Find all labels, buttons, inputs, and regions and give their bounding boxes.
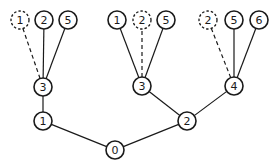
edge-n2-n4 xyxy=(194,91,227,115)
tree-node-n3b: 3 xyxy=(133,77,151,95)
node-label: 6 xyxy=(256,14,263,27)
nodes-layer: 012334125125256 xyxy=(11,11,268,159)
tree-node-m5: 5 xyxy=(157,11,175,29)
tree-node-m1: 1 xyxy=(108,11,126,29)
tree-node-r2: 2 xyxy=(199,11,217,29)
node-label: 0 xyxy=(112,144,119,157)
edge-n4-r2 xyxy=(211,28,230,77)
node-label: 5 xyxy=(163,14,170,27)
edge-n0-n1 xyxy=(51,124,106,146)
tree-node-r5: 5 xyxy=(225,11,243,29)
edge-n3b-m5 xyxy=(145,28,163,77)
node-label: 1 xyxy=(40,115,47,128)
edge-n3a-l1 xyxy=(23,29,40,79)
node-label: 5 xyxy=(65,14,72,27)
tree-node-l5: 5 xyxy=(59,11,77,29)
node-label: 1 xyxy=(114,14,121,27)
tree-node-n0: 0 xyxy=(106,141,124,159)
tree-node-m2: 2 xyxy=(133,11,151,29)
edge-n4-r6 xyxy=(237,28,256,77)
edge-n0-n2 xyxy=(123,124,178,146)
node-label: 2 xyxy=(184,115,191,128)
tree-node-l1: 1 xyxy=(11,11,29,29)
edge-n2-n3b xyxy=(149,92,180,116)
node-label: 3 xyxy=(40,81,47,94)
node-label: 5 xyxy=(231,14,238,27)
tree-node-l2: 2 xyxy=(35,11,53,29)
tree-node-n4: 4 xyxy=(225,77,243,95)
node-label: 2 xyxy=(41,14,48,27)
node-label: 2 xyxy=(205,14,212,27)
node-label: 1 xyxy=(17,14,24,27)
node-label: 3 xyxy=(139,80,146,93)
edge-n3a-l5 xyxy=(46,28,65,78)
edge-n3b-m1 xyxy=(120,28,139,77)
tree-diagram: 012334125125256 xyxy=(0,0,280,168)
tree-node-n3a: 3 xyxy=(34,78,52,96)
tree-node-n1: 1 xyxy=(34,112,52,130)
tree-node-r6: 6 xyxy=(250,11,268,29)
edge-n3a-l2 xyxy=(43,29,44,78)
tree-node-n2: 2 xyxy=(178,112,196,130)
node-label: 2 xyxy=(139,14,146,27)
node-label: 4 xyxy=(231,80,238,93)
